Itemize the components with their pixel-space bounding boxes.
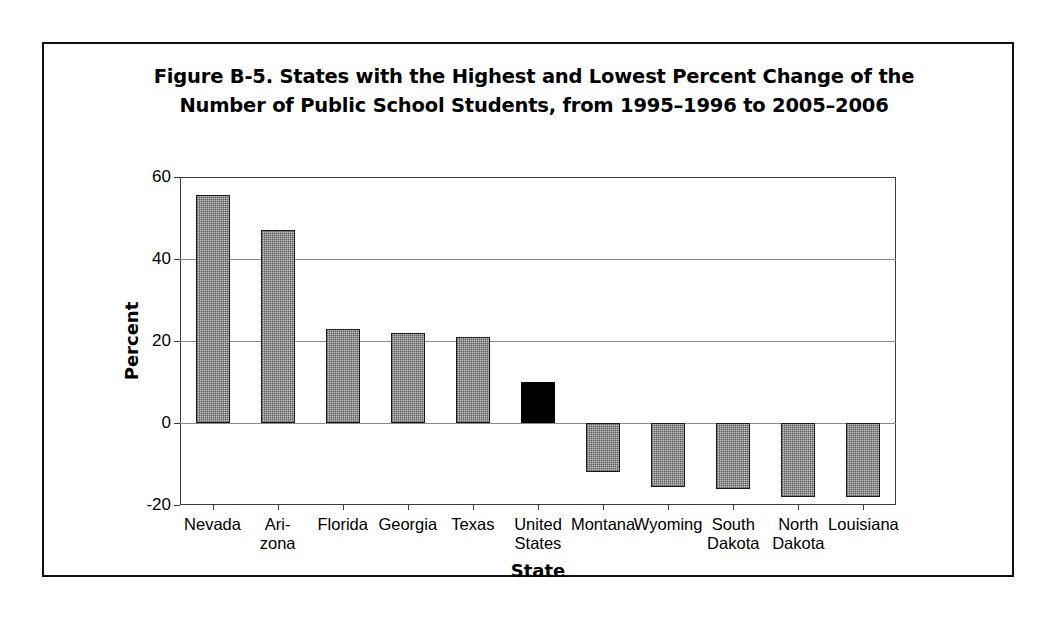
bar-slot: NorthDakota <box>766 177 831 505</box>
y-axis-title: Percent <box>121 302 142 381</box>
bar-slot: Ari-zona <box>245 177 310 505</box>
figure-border: Figure B-5. States with the Highest and … <box>42 42 1014 577</box>
y-tick-label: 40 <box>152 249 171 269</box>
bar-slot: Montana <box>571 177 636 505</box>
bar-slot: Wyoming <box>636 177 701 505</box>
bar-georgia[interactable] <box>391 333 425 423</box>
x-tick-mark <box>798 505 799 510</box>
x-tick-mark <box>213 505 214 510</box>
x-tick-label-line: Louisiana <box>817 515 909 534</box>
y-tick-label: -20 <box>146 495 171 515</box>
bar-slot: Florida <box>310 177 375 505</box>
figure-title: Figure B-5. States with the Highest and … <box>104 62 964 120</box>
y-tick-label: 20 <box>152 331 171 351</box>
x-tick-label: Louisiana <box>817 515 909 534</box>
x-tick-mark <box>538 505 539 510</box>
bar-south-dakota[interactable] <box>716 423 750 489</box>
x-tick-mark <box>408 505 409 510</box>
figure-title-line-2: Number of Public School Students, from 1… <box>104 91 964 120</box>
x-tick-mark <box>603 505 604 510</box>
x-tick-label-line: States <box>492 534 584 553</box>
bar-slot: SouthDakota <box>701 177 766 505</box>
y-tick-label: 0 <box>162 413 171 433</box>
x-axis-title: State <box>180 560 896 581</box>
bar-florida[interactable] <box>326 329 360 423</box>
x-tick-mark <box>863 505 864 510</box>
bar-texas[interactable] <box>456 337 490 423</box>
bar-slot: Nevada <box>180 177 245 505</box>
x-tick-mark <box>278 505 279 510</box>
bar-montana[interactable] <box>586 423 620 472</box>
x-tick-label-line: zona <box>232 534 324 553</box>
bar-arizona[interactable] <box>261 230 295 423</box>
figure-title-line-1: Figure B-5. States with the Highest and … <box>104 62 964 91</box>
x-tick-mark <box>733 505 734 510</box>
bar-slot: Texas <box>440 177 505 505</box>
y-tick-mark <box>174 505 180 506</box>
x-tick-mark <box>668 505 669 510</box>
bar-wyoming[interactable] <box>651 423 685 487</box>
x-tick-mark <box>343 505 344 510</box>
bar-slot: Louisiana <box>831 177 896 505</box>
bar-nevada[interactable] <box>196 195 230 423</box>
bar-chart-plot-area: Percent 6040200-20 NevadaAri-zonaFlorida… <box>180 177 896 505</box>
y-tick-label: 60 <box>152 167 171 187</box>
bar-series: NevadaAri-zonaFloridaGeorgiaTexasUnitedS… <box>180 177 896 505</box>
x-tick-mark <box>473 505 474 510</box>
bar-slot: UnitedStates <box>505 177 570 505</box>
bar-united-states[interactable] <box>521 382 555 423</box>
bar-louisiana[interactable] <box>846 423 880 497</box>
bar-north-dakota[interactable] <box>781 423 815 497</box>
x-tick-label-line: Dakota <box>752 534 844 553</box>
bar-slot: Georgia <box>375 177 440 505</box>
